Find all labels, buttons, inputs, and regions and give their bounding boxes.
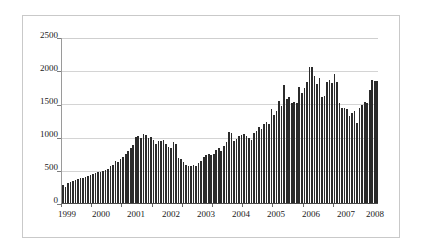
x-tick-mark <box>61 204 62 207</box>
bar <box>301 93 303 203</box>
bar <box>198 163 200 203</box>
bar <box>87 176 89 203</box>
bar <box>158 141 160 203</box>
bar <box>165 144 167 203</box>
x-tick-mark <box>333 204 334 207</box>
bar <box>283 85 285 203</box>
bar <box>361 105 363 203</box>
bar <box>281 106 283 203</box>
y-tick-label-2500: 2500 <box>40 31 58 40</box>
bar <box>150 137 152 203</box>
bar <box>228 132 230 203</box>
bar <box>137 136 139 203</box>
bar <box>291 103 293 203</box>
bar <box>296 103 298 203</box>
bar <box>243 134 245 203</box>
x-tick-mark <box>303 204 304 207</box>
bar <box>223 146 225 203</box>
bar <box>203 157 205 203</box>
bar <box>193 165 195 203</box>
bar <box>145 135 147 203</box>
bar <box>349 116 351 203</box>
bar <box>293 102 295 203</box>
bar <box>107 169 109 203</box>
bar <box>346 109 348 203</box>
bar <box>75 180 77 203</box>
bar <box>356 123 358 203</box>
bar <box>85 177 87 203</box>
bar <box>256 131 258 203</box>
bar <box>210 155 212 203</box>
y-tick-label-2000: 2000 <box>40 64 58 73</box>
x-axis-labels: 1999 2000 2001 2002 2003 2004 2005 2006 … <box>61 209 378 225</box>
bar <box>376 81 378 203</box>
bar <box>311 67 313 203</box>
bar <box>72 181 74 203</box>
bar <box>329 80 331 203</box>
x-tick-mark <box>91 204 92 207</box>
bar <box>271 109 273 203</box>
bar <box>286 99 288 203</box>
bar <box>263 124 265 203</box>
bar <box>336 82 338 203</box>
x-tick-mark <box>121 204 122 207</box>
y-axis-labels: 0 500 1000 1500 2000 2500 <box>22 30 58 212</box>
bar <box>77 179 79 203</box>
bar <box>92 174 94 203</box>
bar <box>70 182 72 203</box>
bar <box>266 122 268 203</box>
bar <box>261 129 263 203</box>
bar <box>163 140 165 203</box>
bar <box>319 78 321 203</box>
bar <box>309 67 311 203</box>
y-tick-label-1000: 1000 <box>40 130 58 139</box>
bar <box>185 165 187 203</box>
bar <box>278 101 280 203</box>
bar <box>67 183 69 203</box>
bar <box>226 142 228 203</box>
x-tick-label-2000: 2000 <box>92 209 110 219</box>
bar <box>143 134 145 203</box>
bar <box>273 115 275 203</box>
x-axis-ticks <box>61 204 378 208</box>
x-tick-mark <box>272 204 273 207</box>
bar <box>238 136 240 203</box>
bar <box>359 108 361 203</box>
bar <box>371 80 373 203</box>
bar <box>62 185 64 203</box>
bar <box>231 133 233 203</box>
x-tick-label-2003: 2003 <box>197 209 215 219</box>
bar <box>236 139 238 203</box>
bar <box>241 135 243 203</box>
bar <box>246 136 248 203</box>
bar <box>127 151 129 203</box>
x-tick-label-2001: 2001 <box>127 209 145 219</box>
bar <box>160 141 162 203</box>
bar <box>213 154 215 203</box>
bar <box>374 81 376 203</box>
bar <box>339 103 341 203</box>
x-tick-label-2008: 2008 <box>366 209 384 219</box>
bar <box>130 148 132 203</box>
bar-series <box>62 38 378 203</box>
bar <box>82 178 84 203</box>
bar <box>90 175 92 203</box>
bar <box>215 150 217 203</box>
chart-root: 0 500 1000 1500 2000 2500 1999 2000 2001… <box>0 0 422 251</box>
bar <box>331 83 333 203</box>
bar <box>354 111 356 203</box>
bar <box>112 165 114 203</box>
x-tick-mark <box>182 204 183 207</box>
bar <box>276 111 278 203</box>
bar <box>173 142 175 203</box>
x-tick-label-2002: 2002 <box>162 209 180 219</box>
x-tick-label-2006: 2006 <box>302 209 320 219</box>
bar <box>364 102 366 203</box>
bar <box>117 162 119 203</box>
plot-area <box>61 38 378 204</box>
bar <box>132 145 134 203</box>
bar <box>188 166 190 203</box>
bar <box>100 172 102 203</box>
bar <box>205 155 207 203</box>
bar <box>95 173 97 203</box>
